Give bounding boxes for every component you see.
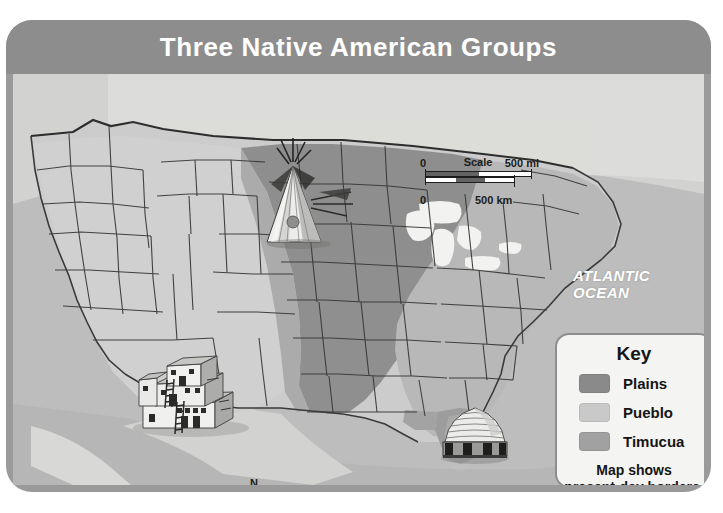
key-note: Map shows present-day borders. xyxy=(557,462,704,485)
map-page: Three Native American Groups xyxy=(0,0,723,513)
atlantic-ocean-line-1: ATLANTIC xyxy=(573,267,704,284)
key-label-timucua: Timucua xyxy=(623,433,684,450)
map-canvas: PACIFIC OCEAN ATLANTIC OCEAN Gulf of Mex… xyxy=(13,74,704,485)
scale-tick-right-miles xyxy=(531,169,532,179)
key-note-line-2: present-day borders. xyxy=(563,479,704,485)
map-scale-bar: Scale 0 500 mi 0 500 km xyxy=(417,156,539,204)
compass-rose-icon xyxy=(216,478,294,485)
key-swatch-pueblo xyxy=(579,403,610,422)
scale-bar-kilometers-fill xyxy=(456,178,485,182)
page-title: Three Native American Groups xyxy=(160,32,557,63)
key-swatch-timucua xyxy=(579,432,610,451)
compass-rose: N S E W xyxy=(216,478,294,485)
key-swatch-plains xyxy=(579,374,610,393)
scale-tick-right-km xyxy=(514,175,515,187)
scale-bar-miles-fill xyxy=(426,172,479,176)
key-item-pueblo[interactable]: Pueblo xyxy=(579,398,704,427)
map-key: Key Plains Pueblo Timucua xyxy=(555,333,704,485)
key-title: Key xyxy=(557,343,704,365)
key-item-timucua[interactable]: Timucua xyxy=(579,427,704,456)
scale-miles-end-label: 500 mi xyxy=(505,157,539,169)
map-frame: Three Native American Groups xyxy=(6,20,711,492)
scale-tick-left xyxy=(425,169,426,185)
scale-km-start-label: 0 xyxy=(420,194,426,206)
atlantic-ocean-line-2: OCEAN xyxy=(573,284,704,301)
key-item-list: Plains Pueblo Timucua xyxy=(557,369,704,456)
key-label-plains: Plains xyxy=(623,375,667,392)
key-label-pueblo: Pueblo xyxy=(623,404,673,421)
map-title-bar: Three Native American Groups xyxy=(6,20,711,74)
atlantic-ocean-label: ATLANTIC OCEAN xyxy=(573,267,704,302)
scale-km-end-label: 500 km xyxy=(475,194,512,206)
key-note-line-1: Map shows xyxy=(563,462,704,479)
scale-bar-kilometers xyxy=(425,177,515,183)
key-item-plains[interactable]: Plains xyxy=(579,369,704,398)
scale-miles-start-label: 0 xyxy=(420,157,426,169)
